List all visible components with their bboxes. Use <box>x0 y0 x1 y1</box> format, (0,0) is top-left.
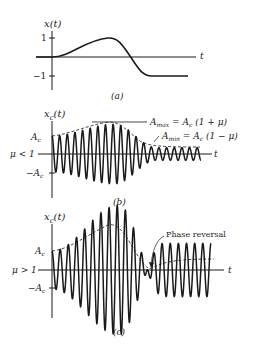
panel-c: xc(t) Ac −Ac μ > 1 t Phase reversal (c) <box>12 206 232 338</box>
condition-mu-greater-1: μ > 1 <box>12 265 37 275</box>
panel-b-ylabel: xc(t) <box>44 108 65 122</box>
panel-b-caption: (b) <box>113 197 126 207</box>
tick-label-1: 1 <box>41 33 47 43</box>
panel-a: x(t) 1 −1 t (a) <box>33 18 204 101</box>
tick-label-neg-ac: −Ac <box>28 283 46 294</box>
am-figure: x(t) 1 −1 t (a) xc(t) Ac −Ac μ < 1 t Ama… <box>0 0 256 350</box>
panel-c-xlabel: t <box>228 265 232 275</box>
amax-annotation: Amax = Ac (1 + μ) <box>149 117 228 128</box>
condition-mu-less-1: μ < 1 <box>10 149 35 159</box>
panel-c-caption: (c) <box>113 327 126 337</box>
panel-a-caption: (a) <box>111 91 124 101</box>
phase-reversal-label: Phase reversal <box>166 230 226 239</box>
amin-annotation: Amin = Ac (1 − μ) <box>161 131 238 142</box>
panel-c-ylabel: xc(t) <box>44 211 65 225</box>
tick-label-neg1: −1 <box>33 71 46 81</box>
panel-b: xc(t) Ac −Ac μ < 1 t Amax = Ac (1 + μ) A… <box>10 108 238 207</box>
tick-label-neg-ac: −Ac <box>26 168 44 179</box>
tick-label-ac: Ac <box>34 246 46 257</box>
tick-label-ac: Ac <box>30 132 42 143</box>
panel-a-ylabel: x(t) <box>44 18 62 29</box>
panel-b-xlabel: t <box>214 149 218 159</box>
panel-a-xlabel: t <box>200 51 204 61</box>
